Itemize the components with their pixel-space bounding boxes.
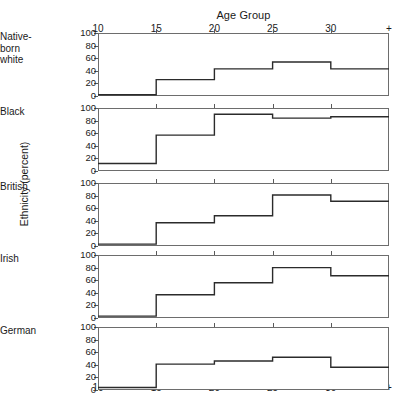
x-tick-mark [273,104,274,108]
x-tick-mark [273,179,274,183]
x-tick-mark [156,251,157,255]
row-label-line: white [0,54,55,66]
row-label-line: German [0,325,55,337]
y-tick-label: 60 [70,128,96,138]
row-label-line: Black [0,106,55,118]
y-tick-label: 20 [70,301,96,311]
x-tick-mark [331,179,332,183]
panel-native-born-white [98,33,389,96]
x-tick-mark [214,323,215,327]
x-tick-mark [156,323,157,327]
chart-title: Age Group [98,9,389,21]
panel-german [98,327,389,390]
x-tick-mark [331,251,332,255]
row-label-native-born-white: Native-bornwhite [0,31,55,66]
panel-irish [98,255,389,318]
x-tick-mark [156,29,157,33]
x-tick-mark [214,251,215,255]
y-tick-label: 20 [70,154,96,164]
series-step-path [98,195,389,244]
y-axis-ticks: 020406080100 [68,33,96,96]
x-tick-mark [331,323,332,327]
y-axis-ticks: 020406080100 [68,183,96,246]
step-line-plot [98,255,389,318]
row-label-line: Native- [0,31,55,43]
row-label-line: Irish [0,253,55,265]
y-tick-label: 80 [70,191,96,201]
y-tick-label: 100 [70,28,96,38]
y-tick-label: 100 [70,178,96,188]
y-tick-label: 40 [70,360,96,370]
y-tick-label: 0 [70,166,96,176]
x-tick-mark [156,179,157,183]
y-tick-label: 80 [70,116,96,126]
x-tick-mark [273,251,274,255]
step-line-plot [98,183,389,246]
panel-black [98,108,389,171]
y-tick-label: 60 [70,347,96,357]
series-step-path [98,62,389,95]
x-tick-mark [214,104,215,108]
step-line-plot [98,327,389,390]
y-tick-label: 60 [70,203,96,213]
y-tick-label: 80 [70,41,96,51]
row-label-irish: Irish [0,253,55,265]
y-tick-label: 100 [70,250,96,260]
y-tick-label: 80 [70,335,96,345]
row-label-german: German [0,325,55,337]
chart-figure: Age Group Ethnicity (percent) 1015202530… [0,0,403,408]
x-tick-mark [331,29,332,33]
y-tick-label: 20 [70,373,96,383]
x-tick-mark [214,29,215,33]
y-tick-label: 40 [70,66,96,76]
x-tick-mark [331,104,332,108]
y-tick-label: 40 [70,288,96,298]
y-tick-label: 60 [70,275,96,285]
y-axis-ticks: 020406080100 [68,255,96,318]
y-tick-label: 80 [70,263,96,273]
y-tick-label: 20 [70,79,96,89]
y-tick-label: 100 [70,322,96,332]
series-step-path [98,357,389,387]
x-tick-mark [156,104,157,108]
y-axis-ticks: 020406080100 [68,108,96,171]
x-tick-mark [214,179,215,183]
step-line-plot [98,33,389,96]
y-tick-label: 100 [70,103,96,113]
x-tick-mark [273,29,274,33]
y-tick-label: 20 [70,229,96,239]
row-label-british: British [0,181,55,193]
row-label-line: born [0,43,55,55]
row-label-black: Black [0,106,55,118]
series-step-path [98,114,389,163]
x-tick-mark [273,323,274,327]
y-tick-label: 40 [70,216,96,226]
y-axis-ticks: 020406080100 [68,327,96,390]
y-tick-label: 0 [70,91,96,101]
panel-british [98,183,389,246]
y-tick-label: 60 [70,53,96,63]
series-step-path [98,268,389,317]
y-tick-label: 40 [70,141,96,151]
row-label-line: British [0,181,55,193]
y-tick-label: 0 [70,385,96,395]
step-line-plot [98,108,389,171]
